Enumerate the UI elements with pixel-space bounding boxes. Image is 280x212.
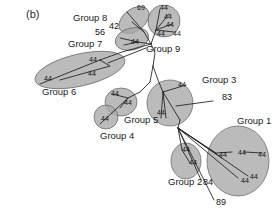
figure-panel: (b) Group 8 Group 7 Group 9 Group 6 Grou… — [0, 0, 280, 212]
support-value: 44 — [173, 30, 181, 37]
support-value: 44 — [189, 159, 197, 166]
group-label-group-7: Group 7 — [68, 38, 102, 49]
support-value: 44 — [178, 81, 186, 88]
branch-backbone-lower — [140, 66, 153, 92]
support-value: 44 — [88, 70, 96, 77]
support-value: 44 — [124, 99, 132, 106]
support-value: 69 — [137, 4, 145, 11]
group-label-group-3: Group 3 — [202, 74, 236, 85]
phylogenetic-tree-figure: (b) Group 8 Group 7 Group 9 Group 6 Grou… — [0, 0, 280, 212]
support-value: 44 — [111, 90, 119, 97]
support-value: 44 — [157, 109, 165, 116]
support-value: 56 — [95, 27, 105, 37]
group-label-group-1: Group 1 — [237, 115, 271, 126]
support-value: 83 — [222, 92, 232, 102]
support-value: 42 — [109, 21, 119, 31]
clade-blob-group-1 — [207, 126, 269, 196]
support-value: 44 — [250, 173, 258, 180]
support-value: 44 — [44, 75, 52, 82]
support-value: 89 — [216, 197, 226, 207]
support-value: 44 — [241, 177, 249, 184]
group-label-group-2: Group 2 — [168, 176, 202, 187]
support-value: 44 — [219, 151, 227, 158]
clade-blobs — [32, 1, 269, 196]
group-label-group-9: Group 9 — [146, 43, 180, 54]
group-label-group-8: Group 8 — [73, 12, 107, 23]
group-label-group-6: Group 6 — [42, 86, 76, 97]
support-value: 44 — [131, 38, 139, 45]
support-value: 44 — [89, 56, 97, 63]
panel-label: (b) — [26, 8, 39, 20]
support-value: 44 — [182, 146, 190, 153]
support-value: 44 — [238, 149, 246, 156]
support-value: 44 — [101, 115, 109, 122]
support-value: 84 — [203, 177, 213, 187]
support-value: 44 — [164, 13, 172, 20]
support-value: 44 — [258, 151, 266, 158]
group-label-group-5: Group 5 — [124, 114, 158, 125]
group-label-group-4: Group 4 — [100, 130, 134, 141]
support-value: 44 — [157, 30, 165, 37]
support-value: 44 — [166, 21, 174, 28]
support-value: 44 — [160, 4, 168, 11]
